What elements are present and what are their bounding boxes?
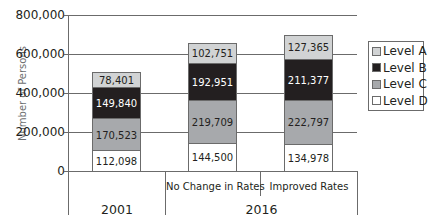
value-label: 144,500 [192,152,233,163]
segment-level-c: 170,523 [92,118,141,152]
swatch-icon [372,47,381,56]
group-label-2016: 2016 [166,202,357,217]
legend-item-level-c: Level C [372,76,423,93]
category-label-improved: Improved Rates [261,181,357,192]
segment-level-d: 112,098 [92,150,141,172]
value-label: 149,840 [96,98,137,109]
value-label: 192,951 [192,77,233,88]
segment-level-a: 102,751 [188,43,237,64]
segment-level-b: 192,951 [188,63,237,101]
legend-label: Level D [383,94,428,108]
value-label: 102,751 [192,48,233,59]
y-tick-400000: 400,000 [15,87,65,99]
segment-level-a: 127,365 [284,35,333,60]
value-label: 222,797 [288,117,329,128]
value-label: 112,098 [96,156,137,167]
legend-label: Level B [383,61,427,75]
swatch-icon [372,63,381,72]
swatch-icon [372,96,381,105]
segment-level-b: 211,377 [284,59,333,101]
x-axis-line [68,171,357,172]
y-tick-800000: 800,000 [15,9,65,21]
value-label: 127,365 [288,42,329,53]
segment-level-b: 149,840 [92,87,141,119]
segment-level-c: 222,797 [284,100,333,145]
axis-end-separator [357,171,358,215]
category-label-no-change: No Change in Rates [166,181,260,192]
value-label: 211,377 [288,75,329,86]
y-tick-600000: 600,000 [15,48,65,60]
group-label-2001: 2001 [69,202,165,217]
value-label: 170,523 [96,130,137,141]
value-label: 78,401 [99,75,134,86]
segment-level-a: 78,401 [92,72,141,88]
legend-item-level-b: Level B [372,60,423,77]
swatch-icon [372,80,381,89]
y-tick-200000: 200,000 [15,126,65,138]
legend-label: Level C [383,77,427,91]
segment-level-c: 219,709 [188,100,237,144]
legend-item-level-a: Level A [372,43,423,60]
legend-item-level-d: Level D [372,93,423,110]
stacked-bar-chart: Number of Persons 800,000 600,000 400,00… [0,0,429,224]
legend: Level A Level B Level C Level D [368,41,424,111]
value-label: 219,709 [192,117,233,128]
bar-2001: 78,401 149,840 170,523 112,098 [92,0,141,224]
legend-label: Level A [383,44,427,58]
value-label: 134,978 [288,153,329,164]
segment-level-d: 144,500 [188,143,237,172]
segment-level-d: 134,978 [284,144,333,172]
y-axis-line [68,15,69,215]
